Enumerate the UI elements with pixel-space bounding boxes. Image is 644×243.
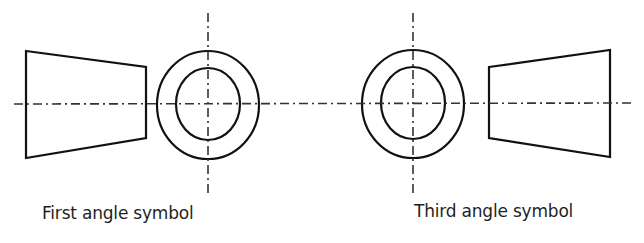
horizontal-centerline [14,103,632,104]
first-angle-label: First angle symbol [42,203,194,223]
third-angle-symbol [362,13,610,196]
third-angle-label: Third angle symbol [414,201,573,221]
